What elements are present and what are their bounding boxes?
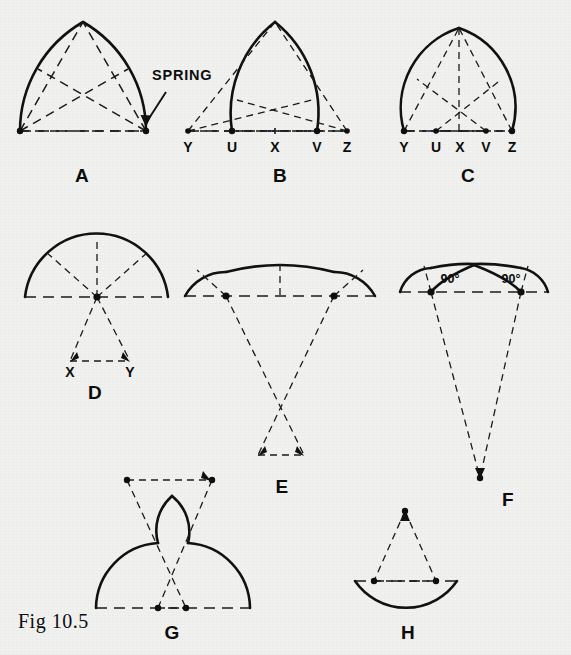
panel-b-group: Y U X V Z B (183, 22, 351, 186)
panel-b-right-arc (275, 22, 318, 131)
panel-c-springer-y-dot (401, 128, 407, 134)
panel-e-leg-left-long (226, 296, 304, 455)
panel-letter-a: A (75, 165, 89, 186)
panel-f-leg-left-long (431, 292, 480, 478)
panel-h-left-node-dot (371, 578, 377, 584)
panel-c-label-u: U (431, 139, 441, 155)
panel-f-leg-right-long (480, 292, 521, 478)
panel-a-right-springer-dot (143, 128, 149, 134)
panel-b-springer-v-dot (314, 128, 320, 134)
panel-b-label-y: Y (183, 139, 193, 155)
panel-g-upper-left-arc (156, 496, 172, 543)
panel-d-label-y: Y (125, 364, 135, 380)
panel-h-centre-dot (402, 508, 408, 514)
panel-f-centre-left-dot (427, 288, 434, 295)
panel-h-main-arc (355, 581, 457, 608)
panel-g-diagonal-right (158, 480, 212, 608)
panel-c-radius-u-upper (436, 79, 502, 131)
panel-letter-d: D (88, 382, 102, 403)
panel-a-radius-left-upper (38, 69, 146, 131)
panel-c-label-z: Z (508, 139, 517, 155)
panel-g-upper-right-arc (172, 496, 189, 543)
panel-g-lower-right-arc (188, 543, 250, 608)
panel-e-haunch-right (334, 272, 375, 296)
panel-d-radius-upper-right (97, 252, 148, 297)
panel-c-radius-v-upper (417, 79, 486, 131)
panel-c-centre-u-dot (433, 128, 439, 134)
panel-b-label-u: U (227, 139, 237, 155)
panel-c-springer-z-dot (509, 128, 515, 134)
panel-f-deep-centre-dot (477, 475, 483, 481)
panel-a-group: SPRING A (17, 22, 213, 186)
panel-g-group: G (96, 471, 250, 643)
panel-c-label-x: X (455, 139, 465, 155)
panel-c-label-y: Y (399, 139, 409, 155)
panel-f-haunch-left (400, 268, 431, 292)
panel-b-label-z: Z (343, 139, 352, 155)
panel-b-centre-z-dot (344, 128, 350, 134)
arch-construction-figure: SPRING A Y U X V (0, 0, 571, 655)
panel-letter-h: H (401, 622, 415, 643)
panel-letter-b: B (273, 165, 287, 186)
panel-e-group: E (185, 264, 375, 497)
panel-b-label-v: V (312, 139, 322, 155)
panel-f-group: 90° 90° F (400, 264, 548, 510)
panel-e-haunch-left (185, 272, 226, 296)
panel-e-leg-right-long (258, 296, 334, 455)
panel-b-centre-y-dot (185, 128, 191, 134)
panel-b-springer-u-dot (229, 128, 235, 134)
panel-a-radius-right-upper (20, 69, 128, 131)
panel-f-angle-label-left: 90° (441, 272, 460, 286)
figure-root: SPRING A Y U X V (0, 0, 571, 655)
panel-d-group: X Y D (25, 233, 168, 403)
panel-letter-e: E (275, 476, 288, 497)
panel-g-upper-left-centre-dot (124, 477, 130, 483)
panel-f-haunch-right (521, 268, 548, 292)
panel-b-label-x: X (270, 139, 280, 155)
panel-b-radius-z-upper (237, 100, 347, 131)
panel-d-leg-left (70, 297, 97, 361)
panel-letter-g: G (164, 622, 179, 643)
panel-letter-c: C (461, 165, 475, 186)
panel-f-angle-label-right: 90° (502, 272, 521, 286)
panel-e-centre-left-dot (222, 292, 229, 299)
panel-g-upper-right-centre-dot (209, 477, 215, 483)
panel-a-left-springer-dot (17, 128, 23, 134)
panel-b-radius-z-apex (275, 22, 347, 131)
panel-e-centre-right-dot (330, 292, 337, 299)
panel-g-lower-left-centre-dot (155, 605, 161, 611)
panel-d-label-x: X (65, 364, 75, 380)
panel-h-leg-left (374, 511, 405, 581)
panel-g-lower-left-arc (96, 543, 158, 608)
panel-h-right-node-dot (433, 578, 439, 584)
panel-f-centre-right-dot (517, 288, 524, 295)
panel-c-centre-v-dot (483, 128, 489, 134)
panel-letter-f: F (502, 489, 514, 510)
panel-d-leg-right (97, 297, 130, 361)
panel-d-radius-upper-left (46, 252, 97, 297)
figure-caption: Fig 10.5 (18, 610, 89, 633)
panel-b-radius-y-upper (188, 100, 312, 131)
panel-h-leg-right (405, 511, 436, 581)
spring-callout-label: SPRING (152, 67, 212, 83)
panel-c-group: Y U X V Z C (399, 28, 516, 186)
panel-g-lower-right-centre-dot (183, 605, 189, 611)
panel-c-label-v: V (481, 139, 491, 155)
panel-h-group: H (355, 508, 457, 643)
panel-d-centre-dot (93, 293, 100, 300)
